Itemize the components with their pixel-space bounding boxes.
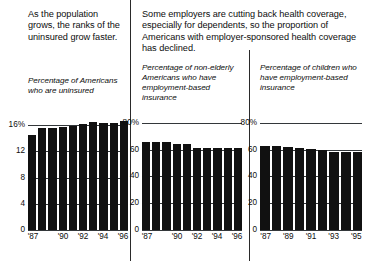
bar (38, 128, 46, 230)
bar (193, 148, 201, 230)
y-axis-tick-label: 0 (252, 226, 257, 234)
bar (283, 147, 293, 230)
chart-nonelderly: 020406080%'87'90'92'94'96 (142, 112, 242, 248)
bar (69, 126, 77, 230)
x-axis: '87'89'91'93'95 (260, 233, 362, 247)
headline-right: Some employers are cutting back health c… (142, 9, 370, 55)
x-axis: '87'90'92'94'96 (142, 233, 242, 247)
panel-uninsured: As the population grows, the ranks of th… (0, 0, 130, 261)
plot-area: 020406080% (142, 112, 242, 230)
x-axis-tick-label: '92 (78, 233, 89, 241)
bar (120, 121, 128, 230)
x-axis-tick-label: '87 (260, 233, 271, 241)
plot-area: 020406080% (260, 112, 362, 230)
y-axis-tick-label: 40 (248, 172, 257, 180)
bar (224, 148, 232, 230)
y-axis-tick-label: 80% (241, 119, 257, 127)
bar (142, 142, 150, 231)
y-axis-tick-label: 0 (20, 226, 25, 234)
bar (183, 144, 191, 230)
y-axis-tick-label: 20 (130, 199, 139, 207)
chart-children: 020406080%'87'89'91'93'95 (260, 112, 362, 248)
bar (272, 146, 282, 230)
headline-left: As the population grows, the ranks of th… (28, 9, 126, 43)
x-axis-tick-label: '91 (306, 233, 317, 241)
bar (329, 152, 339, 230)
chart-subtitle-children: Percentage of children who have employme… (260, 63, 368, 93)
x-axis-tick-label: '93 (328, 233, 339, 241)
y-axis-tick-label: 4 (20, 200, 25, 208)
bar (152, 142, 160, 230)
bar (306, 149, 316, 230)
bar (260, 146, 270, 230)
chart-subtitle-uninsured: Percentage of Americans who are uninsure… (28, 76, 124, 96)
y-axis-tick-label: 60 (130, 145, 139, 153)
bar (341, 152, 351, 230)
bar (213, 148, 221, 230)
bar (59, 127, 67, 230)
y-axis-tick-label: 0 (134, 226, 139, 234)
y-axis-tick-label: 12 (16, 147, 25, 155)
bar (234, 148, 242, 230)
y-axis-tick-label: 60 (248, 145, 257, 153)
gridline (260, 230, 362, 231)
bar (110, 123, 118, 231)
x-axis-tick-label: '89 (283, 233, 294, 241)
x-axis-tick-label: '87 (28, 233, 39, 241)
y-axis-tick-label: 20 (248, 199, 257, 207)
plot-area: 0481216% (28, 112, 128, 230)
x-axis-tick-label: '87 (142, 233, 153, 241)
gridline (142, 230, 242, 231)
x-axis: '87'90'92'94'96 (28, 233, 128, 247)
y-axis-tick-label: 40 (130, 172, 139, 180)
x-axis-tick-label: '96 (232, 233, 243, 241)
bar (89, 122, 97, 230)
bar (79, 124, 87, 230)
bar (99, 123, 107, 231)
bar (48, 128, 56, 230)
x-axis-tick-label: '94 (98, 233, 109, 241)
y-axis-tick-label: 80% (123, 119, 139, 127)
x-axis-tick-label: '90 (172, 233, 183, 241)
bar-series (260, 112, 362, 230)
panel-employment-based: Some employers are cutting back health c… (130, 0, 372, 261)
bar (203, 148, 211, 230)
bar (318, 150, 328, 230)
chart-uninsured: 0481216%'87'90'92'94'96 (28, 112, 128, 248)
bar (162, 142, 170, 230)
x-axis-tick-label: '96 (118, 233, 129, 241)
chart-subtitle-nonelderly: Percentage of non-elderly Americans who … (142, 63, 242, 103)
bar (28, 135, 36, 230)
x-axis-tick-label: '95 (351, 233, 362, 241)
bar (173, 144, 181, 230)
bar (353, 152, 363, 230)
x-axis-tick-label: '92 (192, 233, 203, 241)
bar-series (142, 112, 242, 230)
x-axis-tick-label: '90 (58, 233, 69, 241)
panel-divider (249, 50, 250, 261)
gridline (28, 230, 128, 231)
y-axis-tick-label: 8 (20, 173, 25, 181)
y-axis-tick-label: 16% (9, 121, 25, 129)
bar-series (28, 112, 128, 230)
bar (295, 148, 305, 230)
x-axis-tick-label: '94 (212, 233, 223, 241)
infographic-figure: As the population grows, the ranks of th… (0, 0, 372, 261)
